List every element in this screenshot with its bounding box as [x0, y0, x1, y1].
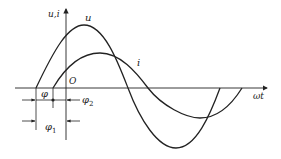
origin-label: O: [69, 76, 77, 86]
phi-label: φ: [41, 88, 48, 99]
curve-label-u: u: [85, 12, 91, 23]
x-axis-label: ωt: [253, 91, 264, 101]
y-axis-label: u,i: [48, 9, 60, 19]
phase-diagram: u,i u i O ωt φ φ2 φ1: [0, 0, 281, 159]
phi1-label: φ1: [45, 121, 56, 135]
curve-label-i: i: [137, 57, 140, 68]
phi2-label: φ2: [82, 94, 93, 108]
current-curve-i: [53, 53, 242, 118]
voltage-curve-u: [36, 25, 220, 148]
